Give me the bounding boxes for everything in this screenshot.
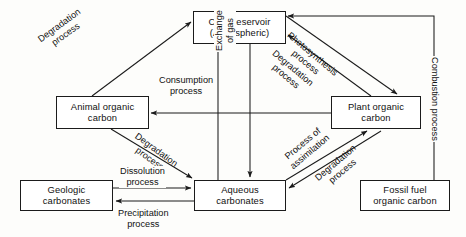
edge-label-dissolution-geologic-to-aqueous-line2: process: [126, 177, 158, 187]
node-geologic-carbonates[interactable]: Geologic carbonates: [20, 180, 113, 211]
edge-label-exchange-of-gas-line2: of gas: [225, 18, 235, 43]
edge-label-consumption-plant-to-animal: Consumption process: [158, 75, 214, 97]
node-co2-reservoir[interactable]: CO2 Reservoir (Atmospheric): [193, 11, 286, 44]
node-animal-organic-carbon[interactable]: Animal organic carbon: [56, 96, 149, 129]
edge-label-dissolution-geologic-to-aqueous: Dissolution process: [119, 166, 166, 188]
edge-label-exchange-of-gas: Exchange of gas: [214, 9, 236, 52]
edge-label-combustion-fossil-to-co2-line2: process: [430, 109, 440, 141]
node-animal-organic-carbon-line1: Animal organic: [71, 101, 134, 112]
edge-label-combustion-fossil-to-co2: Combustion process: [429, 56, 440, 142]
node-fossil-fuel-organic-carbon-line2: organic carbon: [373, 195, 436, 206]
node-plant-organic-carbon-line2: carbon: [361, 112, 390, 123]
edge-label-precipitation-aqueous-to-geologic: Precipitation process: [117, 208, 170, 230]
node-aqueous-carbonates-line2: carbonates: [216, 195, 263, 206]
edge-label-precipitation-aqueous-to-geologic-line1: Precipitation: [118, 208, 169, 218]
edge-label-exchange-of-gas-line1: Exchange: [214, 10, 224, 51]
edge-label-precipitation-aqueous-to-geologic-line2: process: [127, 219, 159, 229]
node-geologic-carbonates-line1: Geologic: [48, 184, 86, 195]
carbon-cycle-diagram: CO2 Reservoir (Atmospheric) Animal organ…: [0, 0, 466, 237]
edge-label-consumption-plant-to-animal-line1: Consumption: [159, 75, 213, 85]
node-plant-organic-carbon[interactable]: Plant organic carbon: [331, 96, 421, 129]
node-plant-organic-carbon-line1: Plant organic: [348, 101, 404, 112]
node-aqueous-carbonates[interactable]: Aqueous carbonates: [194, 180, 286, 211]
edge-label-combustion-fossil-to-co2-line1: Combustion: [430, 57, 440, 106]
node-fossil-fuel-organic-carbon[interactable]: Fossil fuel organic carbon: [360, 180, 450, 211]
node-animal-organic-carbon-line2: carbon: [88, 112, 117, 123]
node-fossil-fuel-organic-carbon-line1: Fossil fuel: [383, 184, 426, 195]
edge-label-dissolution-geologic-to-aqueous-line1: Dissolution: [120, 166, 165, 176]
node-aqueous-carbonates-line1: Aqueous: [221, 184, 259, 195]
edge-label-consumption-plant-to-animal-line2: process: [170, 86, 202, 96]
node-geologic-carbonates-line2: carbonates: [43, 195, 90, 206]
